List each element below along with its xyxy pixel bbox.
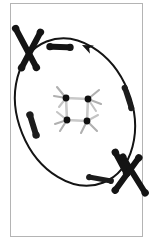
cluster-ligand-group [54, 87, 101, 133]
rod-top-free-floating [46, 43, 74, 51]
direction-arrowhead [82, 45, 94, 54]
figure-canvas [0, 0, 154, 243]
atom-top-left [63, 95, 70, 102]
rod-molecule-group [11, 24, 151, 198]
atom-bottom-right [84, 118, 91, 125]
rod-left-on-orbit [25, 110, 40, 139]
rod-bottom-on-orbit-body [89, 175, 112, 184]
rod-right-on-orbit [121, 84, 135, 112]
atom-top-right [85, 96, 92, 103]
central-square-cluster [54, 87, 101, 133]
atom-bottom-left [64, 117, 71, 124]
figure-root: Molecular rotor orbiting a central clust… [0, 0, 154, 243]
